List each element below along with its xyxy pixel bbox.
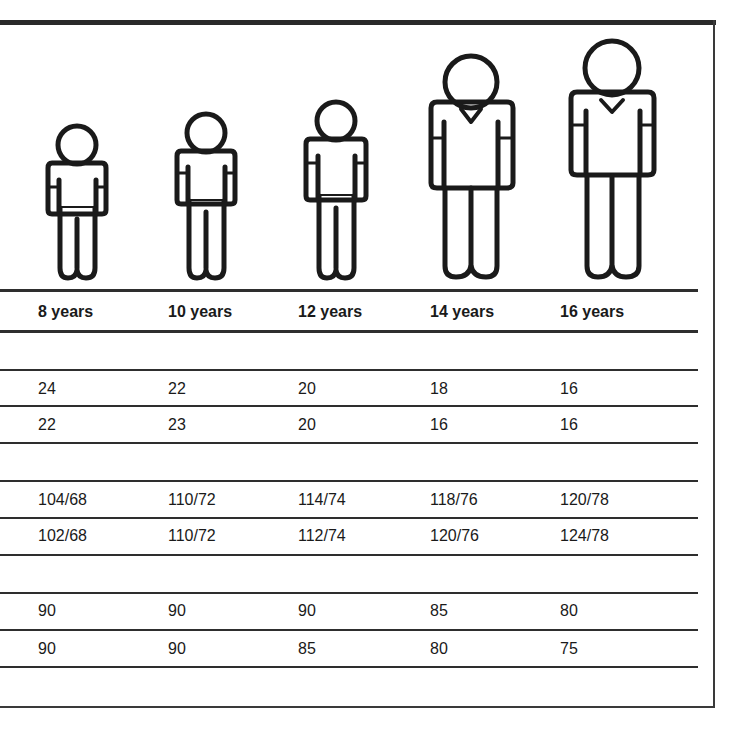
age-figures-illustration [0, 0, 715, 290]
table-cell: 90 [168, 639, 186, 659]
table-cell: 23 [168, 415, 186, 435]
column-header-8-years: 8 years [38, 302, 93, 322]
child-figure-10-years-icon [177, 114, 235, 278]
section-2-top-rule [0, 480, 698, 482]
section-2-row-rule [0, 517, 698, 519]
teen-figure-14-years-icon [431, 56, 513, 277]
table-frame-bottom-rule [0, 706, 715, 708]
column-header-10-years: 10 years [168, 302, 232, 322]
table-cell: 120/76 [430, 526, 479, 546]
table-cell: 20 [298, 379, 316, 399]
table-cell: 114/74 [298, 490, 346, 510]
section-1-row-rule [0, 405, 698, 407]
child-figure-8-years-icon [48, 126, 106, 278]
table-cell: 85 [430, 601, 448, 621]
section-3-bottom-rule [0, 666, 698, 668]
table-cell: 22 [168, 379, 186, 399]
table-cell: 90 [168, 601, 186, 621]
figures-divider-rule [0, 289, 698, 292]
table-cell: 110/72 [168, 490, 216, 510]
column-header-12-years: 12 years [298, 302, 362, 322]
table-cell: 110/72 [168, 526, 216, 546]
table-cell: 90 [38, 601, 56, 621]
section-1-bottom-rule [0, 442, 698, 444]
table-cell: 22 [38, 415, 56, 435]
table-cell: 85 [298, 639, 316, 659]
table-cell: 75 [560, 639, 578, 659]
table-cell: 80 [430, 639, 448, 659]
table-cell: 120/78 [560, 490, 609, 510]
table-cell: 16 [560, 379, 578, 399]
column-header-16-years: 16 years [560, 302, 624, 322]
table-cell: 24 [38, 379, 56, 399]
table-cell: 16 [430, 415, 448, 435]
table-cell: 102/68 [38, 526, 87, 546]
table-cell: 104/68 [38, 490, 87, 510]
column-header-14-years: 14 years [430, 302, 494, 322]
table-cell: 18 [430, 379, 448, 399]
section-1-top-rule [0, 369, 698, 371]
section-2-bottom-rule [0, 554, 698, 556]
table-cell: 16 [560, 415, 578, 435]
table-cell: 112/74 [298, 526, 346, 546]
section-3-row-rule [0, 629, 698, 631]
table-cell: 20 [298, 415, 316, 435]
table-cell: 80 [560, 601, 578, 621]
child-figure-12-years-icon [306, 102, 366, 278]
teen-figure-16-years-icon [571, 41, 654, 277]
table-cell: 124/78 [560, 526, 609, 546]
table-cell: 90 [298, 601, 316, 621]
header-divider-rule [0, 330, 698, 333]
section-3-top-rule [0, 592, 698, 594]
table-cell: 118/76 [430, 490, 478, 510]
table-cell: 90 [38, 639, 56, 659]
